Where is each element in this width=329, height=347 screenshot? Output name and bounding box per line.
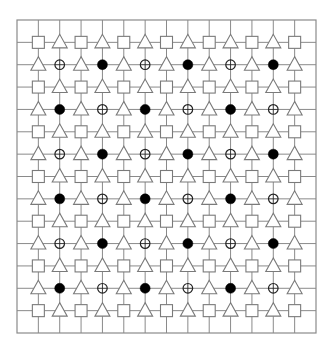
triangle-icon [138,169,153,183]
triangle-icon [223,258,238,272]
square-icon [289,305,301,317]
triangle-icon [287,280,302,294]
triangle-icon [116,101,131,115]
triangle-icon [95,124,110,138]
square-icon [246,215,258,227]
square-icon [118,36,130,48]
triangle-icon [52,303,67,317]
filled-circle-icon [55,283,65,293]
triangle-icon [116,280,131,294]
filled-circle-icon [268,60,278,70]
triangle-icon [223,79,238,93]
triangle-icon [159,101,174,115]
triangle-icon [138,303,153,317]
square-icon [75,126,87,138]
triangle-icon [31,191,46,205]
square-icon [75,171,87,183]
square-icon [32,126,44,138]
open-circle-icon [226,149,236,159]
triangle-icon [202,236,217,250]
square-icon [161,171,173,183]
open-circle-icon [183,283,193,293]
square-icon [32,171,44,183]
triangle-icon [223,303,238,317]
filled-circle-icon [226,194,236,204]
triangle-icon [116,236,131,250]
square-icon [75,260,87,272]
triangle-icon [266,79,281,93]
open-circle-icon [183,105,193,115]
triangle-icon [95,169,110,183]
triangle-icon [159,146,174,160]
square-icon [203,260,215,272]
triangle-icon [31,146,46,160]
triangle-icon [95,303,110,317]
open-circle-icon [226,60,236,70]
triangle-icon [116,146,131,160]
filled-circle-icon [268,239,278,249]
square-icon [161,126,173,138]
triangle-icon [223,169,238,183]
square-icon [75,81,87,93]
triangle-icon [180,124,195,138]
triangle-icon [52,34,67,48]
triangle-icon [52,169,67,183]
triangle-icon [287,191,302,205]
triangle-icon [244,101,259,115]
triangle-icon [266,169,281,183]
open-circle-icon [226,239,236,249]
square-icon [246,81,258,93]
triangle-icon [202,191,217,205]
triangle-icon [266,124,281,138]
triangle-icon [287,101,302,115]
filled-circle-icon [268,149,278,159]
triangle-icon [52,79,67,93]
triangle-icon [116,191,131,205]
triangle-icon [159,57,174,71]
triangle-icon [180,34,195,48]
square-icon [75,305,87,317]
open-circle-icon [268,283,278,293]
filled-circle-icon [140,104,150,114]
square-icon [289,260,301,272]
filled-circle-icon [97,60,107,70]
square-icon [289,126,301,138]
triangle-icon [202,101,217,115]
triangle-icon [138,213,153,227]
filled-circle-icon [55,194,65,204]
filled-circle-icon [226,104,236,114]
triangle-icon [244,191,259,205]
triangle-icon [223,213,238,227]
filled-circle-icon [226,283,236,293]
square-icon [203,171,215,183]
square-icon [118,171,130,183]
square-icon [246,171,258,183]
filled-circle-icon [183,149,193,159]
triangle-icon [31,236,46,250]
square-icon [118,305,130,317]
square-icon [203,81,215,93]
filled-circle-icon [55,104,65,114]
filled-circle-icon [97,239,107,249]
triangle-icon [244,280,259,294]
square-icon [32,215,44,227]
filled-circle-icon [183,239,193,249]
triangle-icon [52,258,67,272]
triangle-icon [52,124,67,138]
triangle-icon [244,236,259,250]
square-icon [32,305,44,317]
triangle-icon [223,124,238,138]
square-icon [118,260,130,272]
filled-circle-icon [140,283,150,293]
triangle-icon [74,191,89,205]
open-circle-icon [183,194,193,204]
square-icon [289,171,301,183]
triangle-icon [74,57,89,71]
filled-circle-icon [183,60,193,70]
square-icon [32,81,44,93]
square-icon [161,36,173,48]
triangle-icon [74,280,89,294]
triangle-icon [74,101,89,115]
open-circle-icon [140,149,150,159]
open-circle-icon [98,105,108,115]
